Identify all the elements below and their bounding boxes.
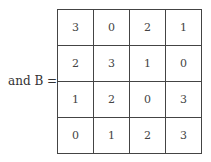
matrix-cell: 3: [94, 46, 130, 82]
matrix-cell: 3: [58, 10, 94, 46]
matrix-label: and B =: [8, 74, 57, 88]
matrix-cell: 2: [58, 46, 94, 82]
matrix-cell: 2: [130, 10, 166, 46]
matrix-cell: 0: [130, 82, 166, 118]
matrix-cell: 1: [166, 10, 202, 46]
matrix-cell: 1: [130, 46, 166, 82]
matrix-cell: 1: [58, 82, 94, 118]
matrix-row: 3 0 2 1: [58, 10, 202, 46]
matrix-cell: 0: [94, 10, 130, 46]
matrix-row: 0 1 2 3: [58, 118, 202, 154]
matrix-cell: 2: [130, 118, 166, 154]
matrix-row: 2 3 1 0: [58, 46, 202, 82]
matrix-cell: 2: [94, 82, 130, 118]
matrix-cell: 3: [166, 82, 202, 118]
matrix-cell: 0: [58, 118, 94, 154]
matrix-cell: 0: [166, 46, 202, 82]
matrix-row: 1 2 0 3: [58, 82, 202, 118]
matrix-cell: 1: [94, 118, 130, 154]
matrix-b: 3 0 2 1 2 3 1 0 1 2 0 3 0 1 2 3: [57, 9, 202, 154]
matrix-cell: 3: [166, 118, 202, 154]
